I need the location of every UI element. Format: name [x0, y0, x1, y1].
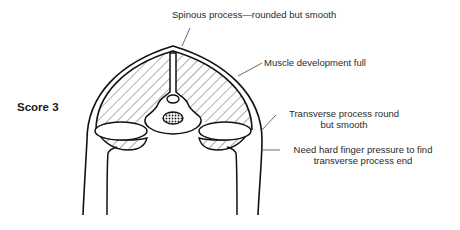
transverse-leader-line [261, 115, 276, 131]
muscle-development-label: Muscle development full [264, 57, 366, 68]
pressure-label-line2: transverse process end [283, 155, 443, 166]
spinal-canal [167, 95, 179, 103]
score-label: Score 3 [17, 101, 59, 113]
finger-pressure-label: Need hard finger pressure to find transv… [283, 144, 443, 166]
muscle-leader-line [238, 63, 262, 76]
transverse-process-label: Transverse process round but smooth [280, 108, 408, 130]
left-transverse-process [95, 122, 147, 140]
right-inner-wall [227, 147, 237, 215]
pressure-label-line1: Need hard finger pressure to find [283, 144, 443, 155]
transverse-label-line2: but smooth [280, 119, 408, 130]
left-inner-wall [107, 147, 117, 215]
transverse-label-line1: Transverse process round [280, 108, 408, 119]
vertebral-body-core [163, 112, 183, 124]
left-side-connector [91, 130, 96, 175]
spinous-leader-line [182, 28, 190, 46]
right-transverse-process [199, 122, 251, 140]
body-condition-diagram: Score 3 Spinous process—rounded but smoo… [0, 0, 460, 230]
spinous-process-label: Spinous process—rounded but smooth [172, 9, 336, 20]
